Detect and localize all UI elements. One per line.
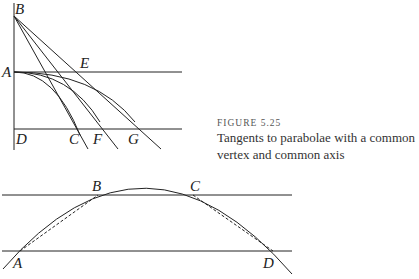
label-B-bottom: B bbox=[92, 178, 101, 194]
label-C-bottom: C bbox=[190, 178, 201, 194]
chord-AB bbox=[20, 195, 98, 251]
figure-number: FIGURE 5.25 bbox=[217, 117, 417, 129]
caption-text: Tangents to parabolae with a common vert… bbox=[217, 129, 417, 163]
label-D-bottom: D bbox=[262, 255, 274, 271]
label-A-top: A bbox=[1, 64, 12, 80]
label-B-top: B bbox=[15, 1, 24, 17]
figure-caption: FIGURE 5.25 Tangents to parabolae with a… bbox=[217, 117, 417, 163]
label-C-top: C bbox=[69, 131, 80, 147]
bottom-figure bbox=[2, 188, 292, 274]
top-figure bbox=[14, 3, 182, 150]
parabola-1 bbox=[14, 72, 80, 135]
label-F-top: F bbox=[92, 131, 103, 147]
label-D-top: D bbox=[15, 131, 27, 147]
label-A-bottom: A bbox=[12, 255, 23, 271]
label-G-top: G bbox=[128, 131, 139, 147]
label-E-top: E bbox=[79, 55, 89, 71]
parabola-2 bbox=[14, 72, 100, 122]
parabola-3 bbox=[14, 72, 135, 122]
parabola-arc bbox=[3, 188, 292, 274]
